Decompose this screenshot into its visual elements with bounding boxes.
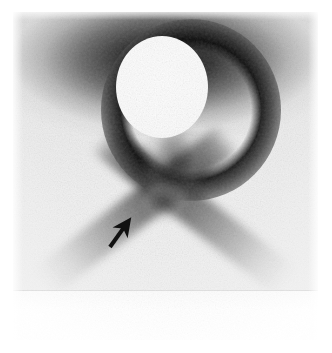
scan-plate — [13, 12, 318, 340]
focal-nodular-uptake — [134, 178, 192, 228]
inferior-band-edge — [13, 290, 318, 291]
scintigraphy-figure — [0, 0, 332, 353]
photopenic-sphere — [116, 36, 208, 138]
inferior-background-band — [13, 290, 318, 340]
